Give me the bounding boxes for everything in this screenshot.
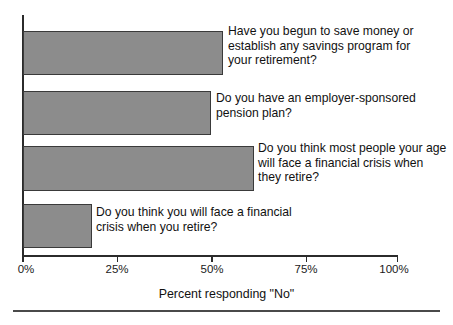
x-tick-label-100: 100% bbox=[379, 263, 408, 276]
x-axis-title: Percent responding "No" bbox=[0, 287, 453, 301]
x-tick-50 bbox=[211, 256, 213, 262]
x-tick-75 bbox=[306, 256, 308, 262]
x-tick-label-50: 50% bbox=[200, 263, 223, 276]
bar-row-1 bbox=[23, 31, 223, 75]
x-tick-label-0: 0% bbox=[18, 263, 35, 276]
bar-chart-figure: 0% 25% 50% 75% 100% Have you begun to sa… bbox=[0, 0, 453, 325]
bar-label-3: Do you think most people your age will f… bbox=[258, 141, 453, 185]
x-tick-label-25: 25% bbox=[105, 263, 128, 276]
bar-row-3 bbox=[23, 146, 254, 191]
footer-divider bbox=[13, 310, 440, 312]
x-tick-25 bbox=[117, 256, 119, 262]
x-axis-line bbox=[22, 255, 398, 257]
x-tick-0 bbox=[22, 256, 24, 262]
bar-label-2: Do you have an employer-sponsored pensio… bbox=[216, 91, 453, 120]
bar-row-4 bbox=[23, 204, 92, 248]
plot-area: 0% 25% 50% 75% 100% Have you begun to sa… bbox=[0, 0, 453, 268]
bar-row-2 bbox=[23, 91, 211, 135]
bar-label-1: Have you begun to save money or establis… bbox=[228, 24, 450, 68]
bar-label-4: Do you think you will face a financial c… bbox=[96, 205, 326, 234]
x-tick-100 bbox=[397, 256, 399, 262]
x-tick-label-75: 75% bbox=[294, 263, 317, 276]
